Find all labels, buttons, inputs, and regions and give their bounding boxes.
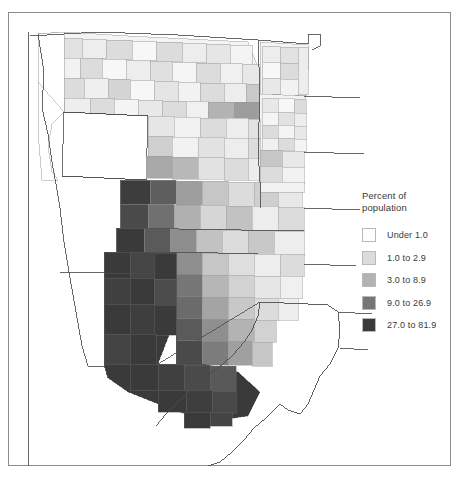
legend-item-27-to-81-9[interactable]: 27.0 to 81.9 bbox=[360, 314, 456, 337]
legend-title: Percent of population bbox=[362, 190, 456, 213]
legend-swatch-9-to-26-9 bbox=[362, 296, 376, 310]
legend-swatch-27-to-81-9 bbox=[362, 318, 376, 332]
state-wyoming bbox=[62, 112, 148, 180]
legend-label-9-to-26-9: 9.0 to 26.9 bbox=[387, 298, 431, 308]
legend-label-27-to-81-9: 27.0 to 81.9 bbox=[387, 320, 436, 330]
legend-swatch-under-1 bbox=[362, 228, 376, 242]
legend-item-3-to-8-9[interactable]: 3.0 to 8.9 bbox=[360, 269, 456, 292]
legend-swatch-3-to-8-9 bbox=[362, 273, 376, 287]
legend-label-3-to-8-9: 3.0 to 8.9 bbox=[387, 275, 426, 285]
figure-page: Percent of population Under 1.0 1.0 to 2… bbox=[0, 0, 462, 479]
legend-item-under-1[interactable]: Under 1.0 bbox=[360, 224, 456, 247]
region-texas bbox=[104, 364, 260, 428]
legend-item-1-to-2-9[interactable]: 1.0 to 2.9 bbox=[360, 247, 456, 270]
region-kansas-oklahoma bbox=[176, 252, 304, 366]
map-legend: Percent of population Under 1.0 1.0 to 2… bbox=[360, 190, 456, 337]
legend-swatch-1-to-2-9 bbox=[362, 251, 376, 265]
legend-label-under-1: Under 1.0 bbox=[387, 230, 428, 240]
region-central-plains bbox=[116, 180, 304, 255]
region-new-mexico bbox=[104, 252, 178, 364]
legend-item-9-to-26-9[interactable]: 9.0 to 26.9 bbox=[360, 292, 456, 315]
region-dakotas bbox=[258, 94, 306, 152]
legend-label-1-to-2-9: 1.0 to 2.9 bbox=[387, 253, 426, 263]
